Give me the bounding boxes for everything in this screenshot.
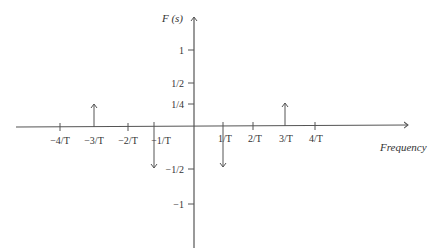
spectrum-chart: −4/T −3/T −2/T −1/T 1/T 2/T 3/T 4/T 1 1/… xyxy=(0,0,439,248)
xtick-label: −4/T xyxy=(50,135,70,146)
xtick-label: 1/T xyxy=(218,133,232,144)
ytick-label: −1 xyxy=(173,199,184,210)
ytick-label: 1/2 xyxy=(171,78,184,89)
xtick-label: −2/T xyxy=(118,135,138,146)
xtick-label: 3/T xyxy=(279,133,293,144)
xtick-label: −1/T xyxy=(151,135,171,146)
ytick-label: 1/4 xyxy=(171,99,184,110)
y-axis-label: F (s) xyxy=(161,12,183,25)
ytick-label: 1 xyxy=(179,45,184,56)
x-axis xyxy=(16,125,408,127)
ytick-label: −1/2 xyxy=(166,164,184,175)
xtick-label: 2/T xyxy=(248,133,262,144)
y-ticks xyxy=(188,50,194,204)
xtick-label: 4/T xyxy=(309,133,323,144)
x-axis-label: Frequency xyxy=(379,141,427,153)
xtick-label: −3/T xyxy=(84,135,104,146)
